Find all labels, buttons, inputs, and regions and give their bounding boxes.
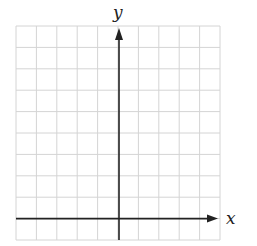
y-axis <box>115 28 123 240</box>
y-axis-arrow-icon <box>115 28 123 40</box>
coordinate-plane: x y <box>0 0 257 246</box>
x-axis-label: x <box>226 208 236 228</box>
x-axis <box>16 215 218 223</box>
y-axis-label: y <box>112 2 123 22</box>
grid-lines <box>16 26 220 240</box>
x-axis-arrow-icon <box>207 215 218 223</box>
